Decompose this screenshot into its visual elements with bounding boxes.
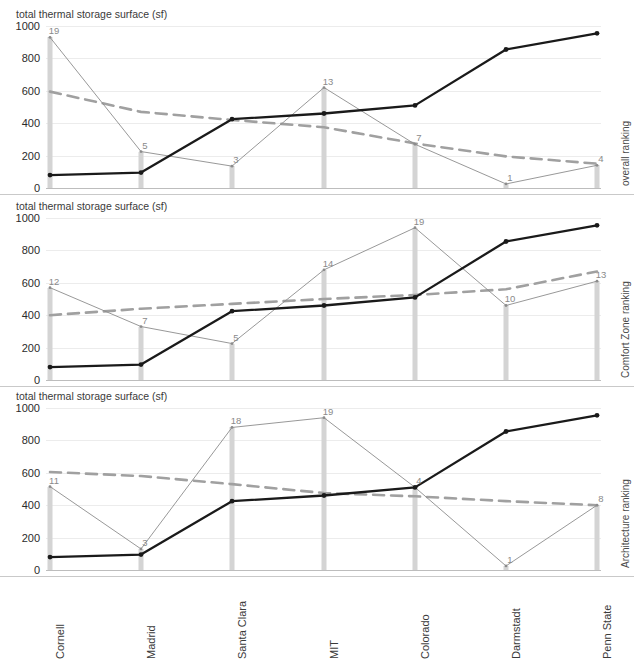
- x-axis-label: Cornell: [54, 624, 66, 659]
- plot-area: 127514191013: [46, 218, 601, 380]
- data-point-label: 19: [49, 25, 60, 36]
- data-point-label: 19: [323, 406, 334, 417]
- chart-page: total thermal storage surface (sf)total …: [0, 0, 634, 663]
- panel-axis-title: total thermal storage surface (sf): [16, 390, 167, 402]
- y-axis-tick: 0: [0, 182, 40, 194]
- panel-separator: [0, 386, 634, 387]
- y-axis-tick: 600: [0, 277, 40, 289]
- data-point-label: 1: [507, 554, 512, 565]
- y-axis-tick: 800: [0, 434, 40, 446]
- y-axis-tick: 200: [0, 342, 40, 354]
- y-axis-tick: 600: [0, 85, 40, 97]
- data-point-label: 4: [416, 475, 421, 486]
- x-axis-label: Madrid: [145, 625, 157, 659]
- y-axis-tick: 1000: [0, 402, 40, 414]
- data-point-label: 7: [416, 132, 421, 143]
- y-axis-tick: 0: [0, 374, 40, 386]
- x-axis-label: Colorado: [419, 614, 431, 659]
- gridline: [46, 380, 601, 381]
- y-axis-tick: 200: [0, 532, 40, 544]
- panel-separator: [0, 194, 634, 195]
- y-axis-tick: 1000: [0, 20, 40, 32]
- data-point-label: 3: [233, 154, 238, 165]
- plot-area: 1131819418: [46, 408, 601, 570]
- y-axis-tick: 400: [0, 309, 40, 321]
- panel-axis-title: total thermal storage surface (sf): [16, 8, 167, 20]
- secondary-axis-label: Comfort Zone ranking: [620, 281, 631, 378]
- x-axis-label: MIT: [328, 640, 340, 659]
- data-point-label: 13: [596, 269, 607, 280]
- data-point-label: 18: [231, 415, 242, 426]
- gridline: [46, 188, 601, 189]
- data-point-label: 19: [414, 216, 425, 227]
- data-point-label: 7: [142, 315, 147, 326]
- x-axis-label: Darmstadt: [510, 608, 522, 659]
- x-axis-label: Penn State: [601, 605, 613, 659]
- series-lines: [46, 26, 601, 188]
- y-axis-tick: 0: [0, 564, 40, 576]
- data-point-label: 5: [142, 140, 147, 151]
- y-axis-tick: 400: [0, 499, 40, 511]
- data-point-label: 8: [598, 493, 603, 504]
- gridline: [46, 570, 601, 571]
- data-point-label: 5: [233, 332, 238, 343]
- y-axis-tick: 400: [0, 117, 40, 129]
- panel-separator: [0, 576, 634, 577]
- data-point-label: 10: [505, 293, 516, 304]
- plot-area: 195313714: [46, 26, 601, 188]
- secondary-axis-label: overall ranking: [620, 121, 631, 186]
- series-lines: [46, 218, 601, 380]
- y-axis-tick: 800: [0, 244, 40, 256]
- secondary-axis-label: Architecture ranking: [620, 479, 631, 568]
- data-point-label: 1: [507, 172, 512, 183]
- data-point-label: 11: [49, 475, 59, 486]
- data-point-label: 4: [598, 153, 603, 164]
- panel-axis-title: total thermal storage surface (sf): [16, 200, 167, 212]
- data-point-label: 12: [49, 276, 60, 287]
- data-point-label: 13: [323, 76, 334, 87]
- y-axis-tick: 800: [0, 52, 40, 64]
- x-axis-labels: CornellMadridSanta ClaraMITColoradoDarms…: [46, 593, 601, 663]
- data-point-label: 3: [142, 537, 147, 548]
- y-axis-tick: 1000: [0, 212, 40, 224]
- series-lines: [46, 408, 601, 570]
- x-axis-label: Santa Clara: [236, 601, 248, 659]
- y-axis-tick: 200: [0, 150, 40, 162]
- data-point-label: 14: [323, 258, 334, 269]
- y-axis-tick: 600: [0, 467, 40, 479]
